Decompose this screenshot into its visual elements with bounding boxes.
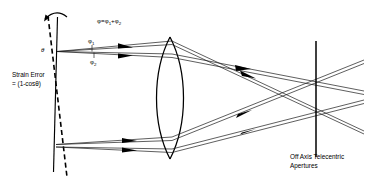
ray-arrow-upper-a: [118, 43, 133, 48]
phi-sum-label: φ=φ1+φ2: [97, 17, 122, 26]
phi1-sub: 1: [92, 41, 95, 46]
tilted-strain-plane: [48, 16, 67, 177]
lower-incident-rays: [56, 137, 172, 153]
ray-arrow-upper-b: [118, 54, 133, 59]
refracted-rays-lower: [172, 60, 364, 153]
object-plane: [54, 17, 58, 172]
ray-arrow-refr-c: [236, 110, 252, 118]
phi-sum-sub2: 2: [119, 21, 122, 26]
aperture-caption-line2: Apertures: [290, 162, 318, 170]
refracted-rays-upper: [172, 41, 364, 134]
strain-error-label-line2: = (1-cosθ): [12, 80, 41, 88]
ray-arrow-refr-b: [235, 65, 251, 71]
upper-incident-rays: [57, 41, 172, 58]
optical-diagram-canvas: θ Strain Error = (1-cosθ) φ=φ1+φ2 φ1 φ2: [0, 0, 365, 180]
theta-label: θ: [41, 47, 45, 53]
optical-diagram-figure: θ Strain Error = (1-cosθ) φ=φ1+φ2 φ1 φ2: [0, 0, 365, 180]
phi-sum-plus: +φ: [111, 17, 119, 24]
phi-sum-head: φ=φ: [97, 17, 109, 24]
phi2-label: φ2: [90, 58, 97, 67]
aperture-caption-line1: Off Axis Telecentric: [290, 153, 345, 160]
phi1-label: φ1: [88, 37, 95, 46]
phi2-sub: 2: [94, 62, 97, 67]
strain-error-label-line1: Strain Error: [12, 71, 46, 78]
